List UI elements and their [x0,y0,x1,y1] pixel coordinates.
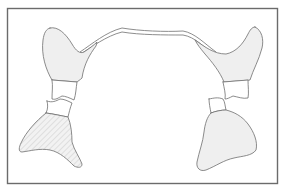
diagram-figure [0,0,289,191]
right-upper-segment [223,80,248,99]
